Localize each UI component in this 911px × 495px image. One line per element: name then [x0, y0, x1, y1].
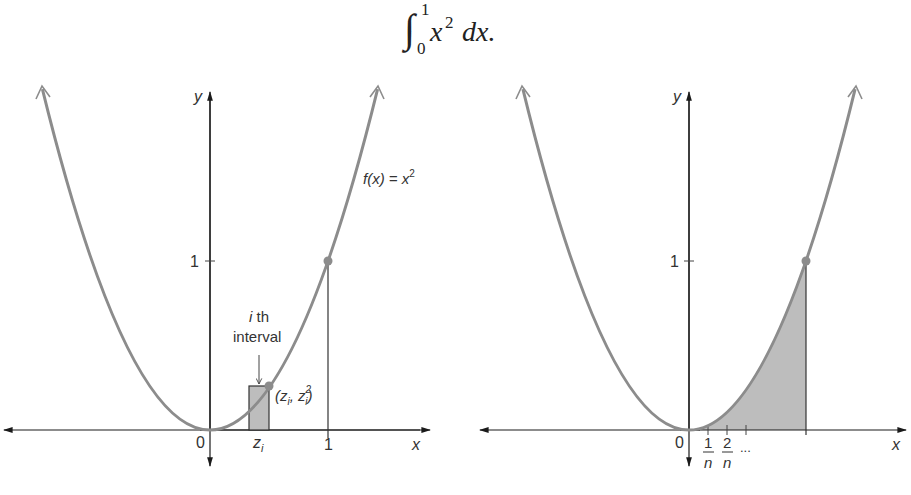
left-x-label: x — [411, 436, 421, 453]
zi-tick-label: zi — [252, 434, 264, 454]
shaded-area — [689, 261, 806, 430]
left-ytick-1: 1 — [190, 253, 199, 270]
right-origin-label: 0 — [675, 434, 684, 451]
frac-2-denominator: n — [723, 454, 731, 471]
right-x-label: x — [891, 436, 901, 453]
frac-1-numerator: 1 — [704, 434, 712, 451]
right-chart: y 1 0 x 1 n 2 n ... — [480, 86, 906, 471]
right-y-label: y — [672, 88, 682, 105]
point-zi — [265, 382, 274, 391]
right-point-1-1 — [802, 257, 811, 266]
left-origin-label: 0 — [196, 434, 205, 451]
interval-label: interval — [233, 328, 281, 345]
frac-2-numerator: 2 — [723, 434, 731, 451]
ith-label: i th — [249, 308, 269, 325]
right-ytick-1: 1 — [670, 253, 679, 270]
curve-label: f(x) = x2 — [363, 168, 415, 187]
point-zi-label: (zi, z2i) — [275, 384, 312, 407]
left-y-label: y — [193, 88, 203, 105]
left-xtick-1: 1 — [324, 436, 333, 453]
ellipsis-label: ... — [740, 440, 751, 455]
frac-1-denominator: n — [704, 454, 712, 471]
point-1-1 — [324, 257, 333, 266]
charts: y 1 0 1 x zi f(x) = x2 i th interval (zi… — [0, 0, 911, 495]
left-chart: y 1 0 1 x zi f(x) = x2 i th interval (zi… — [4, 86, 430, 466]
